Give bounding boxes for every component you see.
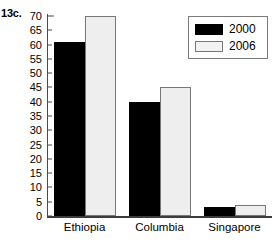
y-axis-tick-label: 15: [30, 168, 47, 179]
y-axis-tick-label: 5: [36, 196, 47, 207]
bar-singapore-2000: [204, 207, 235, 216]
legend-item-2000: 2000: [195, 22, 261, 36]
x-axis-label-ethiopia: Ethiopia: [64, 222, 106, 234]
figure-13c: 13c. 7065605550454035302520151050 2000 2…: [0, 0, 276, 242]
bar-singapore-2006: [235, 205, 266, 216]
x-axis-label-columbia: Columbia: [135, 222, 184, 234]
y-axis-tick-mark: [47, 44, 52, 45]
bar-ethiopia-2006: [85, 16, 116, 216]
y-axis-tick-mark: [47, 58, 52, 59]
bar-columbia-2006: [160, 87, 191, 216]
bar-ethiopia-2000: [54, 42, 85, 216]
y-axis-tick-label: 10: [30, 182, 47, 193]
legend-item-2006: 2006: [195, 39, 261, 53]
y-axis-tick-mark: [47, 187, 52, 188]
y-axis-tick-label: 55: [30, 53, 47, 64]
y-axis-tick-label: 70: [30, 11, 47, 22]
y-axis-tick-label: 65: [30, 25, 47, 36]
legend-label-2000: 2000: [229, 23, 256, 35]
y-axis-tick-label: 25: [30, 139, 47, 150]
y-axis-tick-mark: [47, 216, 52, 217]
y-axis-tick-mark: [47, 116, 52, 117]
y-axis-tick-label: 20: [30, 153, 47, 164]
y-axis-tick-mark: [47, 30, 52, 31]
y-axis-tick-mark: [47, 101, 52, 102]
y-axis-tick-mark: [47, 144, 52, 145]
x-axis-line: [47, 216, 272, 218]
y-axis-tick-mark: [47, 130, 52, 131]
chart-legend: 2000 2006: [188, 16, 268, 59]
y-axis-tick-label: 50: [30, 68, 47, 79]
y-axis-tick-label: 60: [30, 39, 47, 50]
y-axis-tick-mark: [47, 87, 52, 88]
y-axis-tick-label: 35: [30, 111, 47, 122]
legend-swatch-2000-icon: [195, 24, 223, 35]
y-axis-tick-label: 0: [36, 211, 47, 222]
y-axis-tick-label: 30: [30, 125, 47, 136]
x-axis-label-singapore: Singapore: [208, 222, 260, 234]
y-axis-tick-label: 45: [30, 82, 47, 93]
y-axis-tick-label: 40: [30, 96, 47, 107]
y-axis-tick-mark: [47, 173, 52, 174]
y-axis-tick-mark: [47, 158, 52, 159]
figure-number-label: 13c.: [1, 8, 22, 19]
y-axis-tick-mark: [47, 73, 52, 74]
legend-label-2006: 2006: [229, 40, 256, 52]
y-axis-tick-mark: [47, 16, 54, 17]
legend-swatch-2006-icon: [195, 41, 223, 52]
y-axis-tick-mark: [47, 201, 52, 202]
bar-columbia-2000: [129, 102, 160, 216]
